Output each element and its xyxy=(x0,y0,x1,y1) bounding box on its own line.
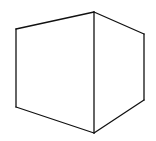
box-diagram xyxy=(0,0,156,141)
